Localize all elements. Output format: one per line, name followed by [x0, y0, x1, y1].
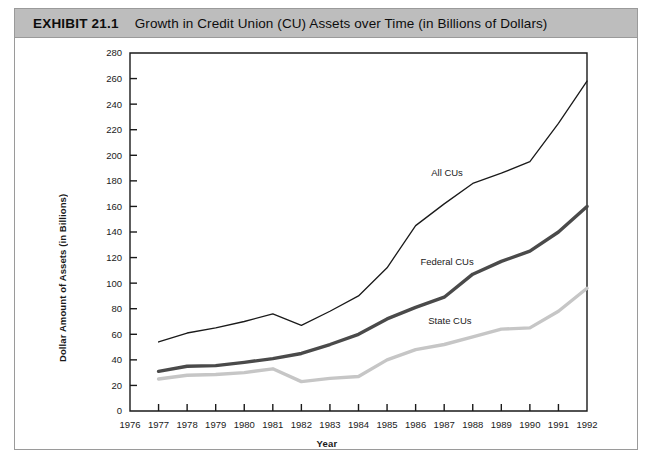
x-tick-label: 1987 — [434, 419, 455, 430]
x-tick-label: 1991 — [548, 419, 569, 430]
x-tick-label: 1981 — [262, 419, 283, 430]
exhibit-page: EXHIBIT 21.1 Growth in Credit Union (CU)… — [0, 0, 654, 461]
x-tick-label: 1990 — [519, 419, 540, 430]
x-tick-label: 1988 — [462, 419, 483, 430]
exhibit-header-band: EXHIBIT 21.1 Growth in Credit Union (CU)… — [14, 8, 638, 38]
y-tick-label: 0 — [117, 405, 122, 416]
line-chart: 0204060801001201401601802002202402602801… — [14, 38, 638, 450]
x-tick-label: 1985 — [376, 419, 397, 430]
y-tick-label: 40 — [111, 354, 122, 365]
x-tick-label: 1989 — [491, 419, 512, 430]
y-tick-label: 20 — [111, 380, 122, 391]
series-line-all-cus — [159, 81, 587, 342]
y-tick-label: 100 — [106, 278, 122, 289]
x-tick-label: 1977 — [148, 419, 169, 430]
series-annotation-state-cus: State CUs — [428, 315, 472, 326]
x-tick-label: 1983 — [319, 419, 340, 430]
y-tick-label: 160 — [106, 201, 122, 212]
series-line-federal-cus — [159, 206, 587, 371]
x-tick-label: 1979 — [205, 419, 226, 430]
y-tick-label: 120 — [106, 252, 122, 263]
x-tick-label: 1976 — [119, 419, 140, 430]
x-tick-label: 1980 — [234, 419, 255, 430]
exhibit-number: EXHIBIT 21.1 — [33, 16, 119, 31]
y-tick-label: 60 — [111, 329, 122, 340]
series-line-state-cus — [159, 288, 587, 381]
series-annotation-federal-cus: Federal CUs — [420, 256, 474, 267]
exhibit-title: Growth in Credit Union (CU) Assets over … — [135, 16, 548, 31]
y-tick-label: 200 — [106, 150, 122, 161]
chart-series — [159, 81, 587, 381]
x-tick-label: 1992 — [576, 419, 597, 430]
y-tick-label: 240 — [106, 99, 122, 110]
x-axis-label: Year — [0, 438, 654, 449]
y-tick-label: 80 — [111, 303, 122, 314]
y-tick-label: 180 — [106, 175, 122, 186]
x-tick-label: 1984 — [348, 419, 369, 430]
y-tick-label: 260 — [106, 73, 122, 84]
y-axis-label: Dollar Amount of Assets (in Billions) — [55, 188, 69, 368]
y-tick-label: 140 — [106, 226, 122, 237]
x-tick-label: 1982 — [291, 419, 312, 430]
y-tick-label: 280 — [106, 47, 122, 58]
x-tick-label: 1978 — [177, 419, 198, 430]
chart-axes: 0204060801001201401601802002202402602801… — [106, 47, 597, 430]
x-tick-label: 1986 — [405, 419, 426, 430]
y-tick-label: 220 — [106, 124, 122, 135]
series-annotation-all-cus: All CUs — [431, 167, 463, 178]
chart-container: 0204060801001201401601802002202402602801… — [14, 38, 638, 450]
